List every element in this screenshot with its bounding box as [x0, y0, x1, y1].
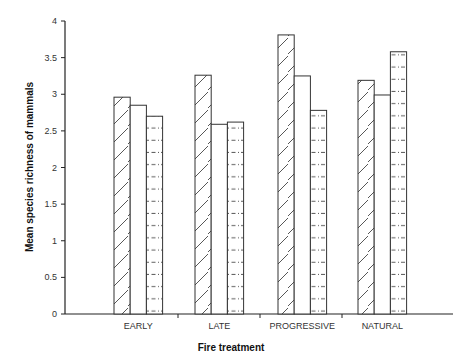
y-tick-label: 1.5 — [44, 199, 57, 209]
y-tick-label: 1 — [52, 236, 57, 246]
y-tick-label: 2.5 — [44, 126, 57, 136]
bar — [278, 35, 294, 314]
y-tick-label: 2 — [52, 163, 57, 173]
bar — [211, 124, 227, 314]
bar — [146, 116, 162, 314]
x-axis-title: Fire treatment — [198, 342, 265, 353]
bar — [195, 75, 211, 314]
x-category-label: EARLY — [124, 321, 153, 331]
y-tick-label: 3.5 — [44, 53, 57, 63]
bar — [358, 80, 374, 314]
x-category-label: NATURAL — [362, 321, 403, 331]
y-axis: 00.511.522.533.54 — [44, 16, 65, 319]
bars — [114, 35, 407, 314]
bar — [294, 76, 310, 314]
bar — [390, 52, 406, 314]
y-tick-label: 0.5 — [44, 272, 57, 282]
y-axis-title: Mean species richness of mammals — [24, 82, 35, 253]
bar — [130, 105, 146, 314]
y-tick-label: 4 — [52, 16, 57, 26]
bar — [310, 110, 326, 314]
bar — [114, 97, 130, 314]
bar — [374, 95, 390, 314]
bar-chart: 00.511.522.533.54 EARLYLATEPROGRESSIVENA… — [0, 0, 475, 362]
x-axis: EARLYLATEPROGRESSIVENATURAL — [65, 314, 453, 331]
x-category-label: PROGRESSIVE — [270, 321, 336, 331]
bar — [227, 122, 243, 314]
y-tick-label: 0 — [52, 309, 57, 319]
y-tick-label: 3 — [52, 89, 57, 99]
x-category-label: LATE — [208, 321, 230, 331]
